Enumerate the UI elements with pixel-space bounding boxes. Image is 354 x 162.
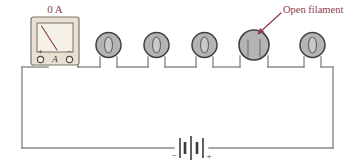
lamp-1-filament [105, 37, 113, 53]
ammeter-positive-label: + [38, 46, 43, 56]
battery-negative-label: − [171, 150, 176, 160]
circuit-wires [22, 56, 333, 148]
lamp-4-envelope [239, 30, 269, 60]
ammeter-scale-label: A [51, 54, 58, 64]
circuit-diagram-figure: 0 A + A − Open filament − + [0, 0, 354, 162]
lamp-1[interactable] [96, 33, 121, 58]
open-filament-label: Open filament [283, 4, 343, 15]
lamp-4[interactable] [239, 30, 269, 60]
lamp-2-filament [153, 37, 161, 53]
ammeter-negative-terminal[interactable] [66, 56, 72, 62]
lamp-3[interactable] [192, 33, 217, 58]
lamp-3-filament [201, 37, 209, 53]
lamp-2[interactable] [144, 33, 169, 58]
circuit-svg: 0 A + A − Open filament − + [0, 0, 354, 162]
battery-positive-label: + [206, 151, 211, 161]
ammeter-negative-label: − [67, 46, 72, 56]
ammeter-reading-label: 0 A [47, 3, 63, 15]
ammeter-positive-terminal[interactable] [37, 56, 43, 62]
lamp-5[interactable] [300, 33, 325, 58]
lamp-5-filament [309, 37, 317, 53]
open-filament-arrow-shaft [259, 13, 281, 33]
battery[interactable] [180, 136, 203, 160]
open-filament-arrow [257, 13, 281, 35]
